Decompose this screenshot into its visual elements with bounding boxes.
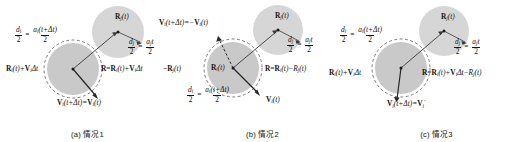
label-left-position-a: Ri(t)+ViΔt — [6, 65, 38, 74]
panel-c-graphics — [349, 0, 524, 118]
label-fraction-left-di: di2 = ai(t+Δt)2 — [13, 26, 60, 44]
center-dot-j — [117, 31, 120, 34]
label-fraction-right-dj: dj2 = ajt2 — [126, 38, 157, 56]
label-left-position-b: −Rj(t) — [163, 65, 181, 74]
arrowhead-velocity-reversed — [216, 36, 222, 42]
label-left-position-c: Ri(t)+ViΔt — [329, 69, 361, 78]
label-right-position-b: R=Ri(t)−Rj(t) — [265, 65, 306, 74]
label-fraction-left-di: di2 = ai(t+Δt)2 — [338, 26, 385, 44]
label-fraction-left-di: di2 = ai(t+Δt)2 — [185, 86, 232, 104]
label-velocity-a: Vi(t+Δt)=Vi(t) — [57, 99, 101, 108]
panel-case-1: Rj(t) di2 = ai(t+Δt)2 dj2 = ajt2 Ri(t)+V… — [0, 0, 175, 142]
figure-three-case-collision-diagram: Rj(t) di2 = ai(t+Δt)2 dj2 = ajt2 Ri(t)+V… — [0, 0, 524, 142]
panel-case-2: Rj(t) Vi(t+Δt)=−Vi(t) dj2 = ajt2 −Rj(t) … — [175, 0, 350, 142]
center-dot-i — [72, 68, 75, 71]
label-velocity-c: Vi(t+Δt)=Vi′ — [387, 100, 425, 109]
center-dot-i — [232, 67, 235, 70]
label-upper-circle-center-j: Rj(t) — [115, 13, 129, 22]
label-right-position-a: R=Ri(t)+ViΔt — [101, 65, 143, 74]
label-fraction-right-dj: dj2 = ajt2 — [285, 36, 316, 54]
caption-case-3: (c) 情况3 — [349, 128, 524, 139]
caption-case-1: (a) 情况1 — [0, 128, 175, 139]
panel-a-stage: Rj(t) di2 = ai(t+Δt)2 dj2 = ajt2 Ri(t)+V… — [0, 0, 175, 118]
panel-c-stage: Rj(t) di2 = ai(t+Δt)2 dj2 = ajt2 Ri(t)+V… — [349, 0, 524, 118]
label-velocity-bottom-b: Vi(t) — [266, 96, 280, 105]
panel-case-3: Rj(t) di2 = ai(t+Δt)2 dj2 = ajt2 Ri(t)+V… — [349, 0, 524, 142]
center-dot-i — [400, 67, 403, 70]
panel-b-stage: Rj(t) Vi(t+Δt)=−Vi(t) dj2 = ajt2 −Rj(t) … — [175, 0, 350, 118]
center-dot-j — [443, 30, 446, 33]
label-velocity-top-b: Vi(t+Δt)=−Vi(t) — [159, 19, 208, 28]
center-dot-j — [277, 29, 280, 32]
label-right-position-c: R=Ri(t)+ViΔt−Rj(t) — [422, 69, 482, 78]
caption-case-2: (b) 情况2 — [175, 128, 350, 139]
label-upper-circle-center-j: Rj(t) — [275, 12, 289, 21]
label-inner-circle-center-i: Ri(t) — [211, 64, 225, 73]
label-fraction-right-dj: dj2 = ajt2 — [452, 38, 483, 56]
label-upper-circle-center-j: Rj(t) — [441, 13, 455, 22]
